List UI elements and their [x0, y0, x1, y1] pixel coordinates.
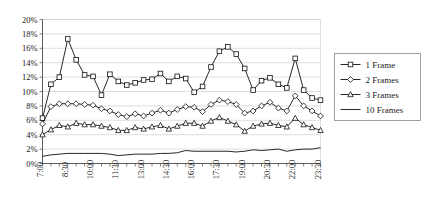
legend-marker-0	[348, 62, 353, 67]
series-2-point-2	[57, 122, 62, 127]
legend-label-2: 3 Frames	[366, 90, 400, 100]
series-0-point-26	[259, 78, 264, 83]
x-tick-label-11: 23:30	[313, 160, 323, 179]
series-0-point-24	[242, 66, 247, 71]
series-0-point-2	[57, 75, 62, 80]
chart-container: 0%2%4%6%8%10%12%14%16%18%20%7:008:3010:0…	[0, 0, 430, 207]
series-1-point-11	[132, 111, 138, 117]
series-0-point-19	[200, 84, 205, 89]
series-1-point-14	[158, 107, 164, 113]
x-tick-label-10: 22:00	[287, 160, 297, 179]
series-0-point-1	[49, 82, 54, 87]
series-2-point-27	[267, 120, 272, 125]
y-tick-label-8: 16%	[22, 43, 38, 53]
y-tick-label-2: 4%	[26, 130, 37, 140]
x-tick-label-1: 8:30	[60, 162, 70, 177]
series-0-point-16	[175, 74, 180, 79]
x-tick-label-5: 14:30	[161, 160, 171, 179]
series-1-point-12	[141, 113, 147, 119]
series-1-point-18	[191, 104, 197, 110]
legend-label-3: 10 Frames	[366, 105, 404, 115]
series-1-point-29	[284, 108, 290, 114]
series-2-point-30	[293, 115, 298, 120]
series-1-point-33	[318, 113, 324, 119]
series-0-point-15	[167, 79, 172, 84]
series-1-point-15	[166, 110, 172, 116]
series-0-point-31	[301, 88, 306, 93]
y-tick-label-1: 2%	[26, 144, 37, 154]
series-0-point-32	[310, 96, 315, 101]
series-1-point-25	[250, 108, 256, 114]
series-1-point-26	[259, 103, 265, 109]
y-tick-label-5: 10%	[22, 87, 38, 97]
series-0-point-3	[65, 37, 70, 42]
series-1-point-1	[48, 104, 54, 110]
series-1-point-0	[40, 121, 46, 127]
series-1-point-9	[115, 112, 121, 118]
series-1-point-13	[149, 110, 155, 116]
series-1-point-5	[82, 102, 88, 108]
series-0-point-11	[133, 81, 138, 86]
series-2-point-21	[217, 115, 222, 120]
x-tick-label-4: 13:00	[136, 160, 146, 179]
series-0-point-33	[318, 98, 323, 103]
series-0-point-22	[226, 45, 231, 50]
series-1-point-32	[309, 108, 315, 114]
series-0-point-21	[217, 49, 222, 54]
x-tick-label-8: 19:00	[237, 160, 247, 179]
series-0-point-14	[158, 71, 163, 76]
series-0-point-30	[293, 56, 298, 61]
series-1-point-16	[174, 107, 180, 113]
series-2-point-24	[242, 128, 247, 133]
line-chart: 0%2%4%6%8%10%12%14%16%18%20%7:008:3010:0…	[0, 0, 430, 207]
series-0-point-18	[192, 90, 197, 95]
series-0-point-25	[251, 88, 256, 93]
series-0-point-10	[124, 83, 129, 88]
series-0-point-5	[82, 73, 87, 78]
series-0-point-9	[116, 79, 121, 84]
series-2-point-4	[73, 120, 78, 125]
x-tick-label-2: 10:00	[85, 160, 95, 179]
series-1-point-22	[225, 99, 231, 105]
series-0-point-6	[91, 74, 96, 79]
x-tick-label-0: 7:00	[35, 162, 45, 177]
series-0-point-23	[234, 52, 239, 57]
series-2-point-31	[301, 122, 306, 127]
legend-label-1: 2 Frames	[366, 75, 400, 85]
series-1-point-21	[217, 97, 223, 103]
series-1-point-6	[90, 102, 96, 108]
series-0-point-4	[74, 58, 79, 63]
series-0-point-28	[276, 82, 281, 87]
x-tick-label-7: 17:30	[211, 160, 221, 179]
series-0-point-17	[183, 76, 188, 81]
x-tick-label-6: 16:00	[186, 160, 196, 179]
y-tick-label-9: 18%	[22, 29, 38, 39]
series-0-point-13	[150, 77, 155, 82]
series-1-point-17	[183, 104, 189, 110]
y-tick-label-10: 20%	[22, 15, 38, 25]
y-tick-label-4: 8%	[26, 101, 37, 111]
x-tick-label-3: 11:30	[110, 160, 120, 179]
series-2-point-1	[48, 127, 53, 132]
series-0-point-7	[99, 93, 104, 98]
series-1-point-27	[267, 99, 273, 105]
y-tick-label-7: 14%	[22, 58, 38, 68]
series-0-point-20	[209, 65, 214, 70]
series-2-point-11	[132, 125, 137, 130]
series-0-point-27	[268, 76, 273, 81]
series-2-point-14	[158, 122, 163, 127]
y-tick-label-3: 6%	[26, 115, 37, 125]
series-0-point-8	[108, 72, 113, 77]
series-1-point-10	[124, 114, 130, 120]
series-0-point-12	[141, 78, 146, 83]
y-tick-label-6: 12%	[22, 72, 38, 82]
series-0-point-29	[285, 86, 290, 91]
series-1-point-7	[99, 106, 105, 112]
series-1-point-8	[107, 108, 113, 114]
legend-label-0: 1 Frame	[366, 60, 396, 70]
x-tick-label-9: 20:30	[262, 160, 272, 179]
